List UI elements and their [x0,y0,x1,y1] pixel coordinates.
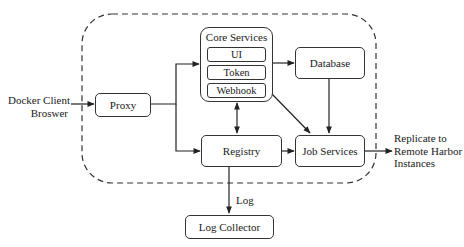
replicate-line-2: Remote Harbor [394,145,462,158]
token-label: Token [223,67,249,78]
replicate-line-3: Instances [394,157,462,170]
core-services-title: Core Services [201,31,272,43]
replicate-line-1: Replicate to [394,132,462,145]
job-services-node: Job Services [295,135,365,167]
client-line-1: Docker Client [8,94,68,107]
core-services-node: Core Services UI Token Webhook [200,27,273,102]
job-services-label: Job Services [302,145,357,157]
registry-label: Registry [223,145,260,157]
replicate-label: Replicate to Remote Harbor Instances [394,132,462,170]
core-component-token: Token [207,65,266,80]
edge-proxy-core [151,64,199,104]
ui-label: UI [231,49,242,60]
log-edge-label: Log [236,194,254,207]
edge-proxy-registry [176,104,200,151]
webhook-label: Webhook [217,85,257,96]
log-collector-node: Log Collector [185,215,274,239]
docker-client-label: Docker Client Broswer [8,94,68,119]
client-line-2: Broswer [8,107,68,120]
proxy-label: Proxy [110,99,136,111]
core-component-webhook: Webhook [207,83,266,98]
proxy-node: Proxy [95,93,151,117]
database-node: Database [295,47,365,79]
registry-node: Registry [201,135,282,167]
database-label: Database [310,57,350,69]
log-collector-label: Log Collector [199,221,260,233]
edge-core-jobservices [272,94,310,133]
core-component-ui: UI [207,47,266,62]
